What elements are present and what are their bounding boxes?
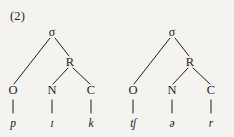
tree2-segment-onset: tʃ	[130, 118, 136, 130]
tree2-branch-sigma-onset	[134, 38, 170, 84]
tree1-branch-rhyme-nucleus	[53, 68, 68, 84]
tree1-branch-sigma-onset	[14, 38, 50, 84]
tree2-node-onset: O	[128, 84, 137, 97]
tree1-segment-nucleus: ɪ	[50, 118, 53, 130]
tree2-node-rhyme: R	[186, 56, 194, 69]
tree1-segment-onset: p	[10, 118, 16, 130]
tree2-segment-nucleus: ə	[169, 118, 174, 130]
tree2-node-coda: C	[207, 84, 215, 97]
tree2-segment-coda: r	[209, 118, 213, 130]
tree1-node-rhyme: R	[66, 56, 74, 69]
tree1-node-onset: O	[8, 84, 17, 97]
tree1-node-coda: C	[87, 84, 95, 97]
tree1-segment-coda: k	[88, 118, 93, 130]
tree1-branch-sigma-rhyme	[55, 38, 69, 56]
tree2-branch-rhyme-nucleus	[173, 68, 188, 84]
figure-canvas: (2) σ R O N C p ɪ	[0, 0, 234, 137]
tree1-branch-rhyme-coda	[73, 68, 90, 84]
tree2-node-sigma: σ	[169, 26, 175, 38]
tree2-branch-rhyme-coda	[193, 68, 210, 84]
tree2-branch-sigma-rhyme	[175, 38, 189, 56]
tree2-node-nucleus: N	[167, 84, 176, 97]
tree1-node-nucleus: N	[47, 84, 56, 97]
tree1-node-sigma: σ	[49, 26, 55, 38]
tree-branch-lines	[0, 0, 234, 137]
